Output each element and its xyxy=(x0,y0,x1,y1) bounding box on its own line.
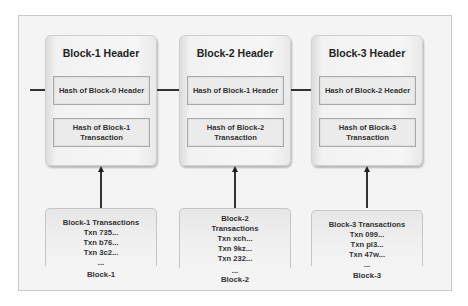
block-2-transactions: Block-2 Transactions Txn xch... Txn 9kz.… xyxy=(179,208,291,268)
block-1-label: Block-1 xyxy=(45,270,157,279)
link-tx-to-header-3 xyxy=(366,170,368,208)
transactions-title: Block-2 Transactions xyxy=(180,214,290,234)
transaction-item: Txn xch... xyxy=(180,234,290,244)
link-tx-to-header-1 xyxy=(100,170,102,208)
transaction-item: Txn 232... xyxy=(180,254,290,264)
transaction-ellipsis: ... xyxy=(46,258,156,268)
block-2-header: Block-2 Header Hash of Block-1 Header Ha… xyxy=(179,35,291,166)
transaction-hash-box: Hash of Block-3 Transaction xyxy=(319,118,416,147)
transaction-item: Txn b76... xyxy=(46,238,156,248)
transaction-item: Txn pl3... xyxy=(312,240,422,250)
prev-header-hash-box: Hash of Block-0 Header xyxy=(53,76,150,105)
arrow-head-icon xyxy=(232,166,238,172)
transactions-title: Block-3 Transactions xyxy=(312,220,422,230)
transaction-item: Txn 9kz... xyxy=(180,244,290,254)
transactions-title: Block-1 Transactions xyxy=(46,218,156,228)
prev-header-hash-box: Hash of Block-1 Header xyxy=(187,76,284,105)
arrow-head-icon xyxy=(98,166,104,172)
block-2-label: Block-2 xyxy=(179,275,291,284)
block-header-title: Block-3 Header xyxy=(312,47,422,59)
arrow-head-icon xyxy=(364,166,370,172)
transaction-ellipsis: ... xyxy=(312,260,422,270)
transaction-item: Txn 3c2... xyxy=(46,248,156,258)
transaction-item: Txn 735... xyxy=(46,228,156,238)
link-arrow-block1-to-block2 xyxy=(157,89,180,91)
block-3-label: Block-3 xyxy=(311,271,423,280)
block-3-transactions: Block-3 Transactions Txn 099... Txn pl3.… xyxy=(311,210,423,266)
block-3-header: Block-3 Header Hash of Block-2 Header Ha… xyxy=(311,35,423,166)
transaction-hash-box: Hash of Block-1 Transaction xyxy=(53,118,150,147)
block-1-transactions: Block-1 Transactions Txn 735... Txn b76.… xyxy=(45,208,157,266)
link-tx-to-header-2 xyxy=(234,170,236,208)
transaction-item: Txn 099... xyxy=(312,230,422,240)
block-1-header: Block-1 Header Hash of Block-0 Header Ha… xyxy=(45,35,157,166)
transaction-hash-box: Hash of Block-2 Transaction xyxy=(187,118,284,147)
block-header-title: Block-2 Header xyxy=(180,47,290,59)
transaction-ellipsis: ... xyxy=(179,266,291,275)
transaction-item: Txn 47w... xyxy=(312,250,422,260)
prev-header-hash-box: Hash of Block-2 Header xyxy=(319,76,416,105)
block-header-title: Block-1 Header xyxy=(46,47,156,59)
